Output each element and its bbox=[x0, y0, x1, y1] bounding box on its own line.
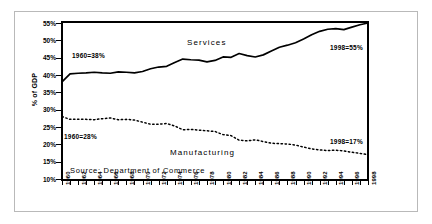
y-tick-label: 50% bbox=[30, 37, 56, 44]
x-tick-mark bbox=[175, 181, 176, 185]
x-tick-mark bbox=[207, 181, 208, 185]
x-tick-mark bbox=[360, 181, 361, 185]
x-tick-mark bbox=[255, 181, 256, 185]
x-tick-mark bbox=[320, 181, 321, 185]
annotation-manufacturing-start: 1960=28% bbox=[64, 133, 97, 140]
x-tick-mark bbox=[78, 181, 79, 185]
annotation-services-end: 1998=55% bbox=[330, 44, 363, 51]
x-tick-mark bbox=[271, 181, 272, 185]
x-tick-label: 1988 bbox=[290, 171, 296, 185]
y-tick-label: 30% bbox=[30, 106, 56, 113]
y-tick-label: 35% bbox=[30, 89, 56, 96]
y-tick-mark bbox=[56, 144, 62, 145]
x-tick-mark bbox=[143, 181, 144, 185]
y-tick-label: 20% bbox=[30, 141, 56, 148]
source-note: Source: Department of Commerce bbox=[70, 166, 205, 175]
y-tick-mark bbox=[56, 110, 62, 111]
plot-right-border bbox=[367, 21, 369, 181]
x-tick-label: 1978 bbox=[209, 171, 215, 185]
y-tick-label: 25% bbox=[30, 124, 56, 131]
y-tick-label: 45% bbox=[30, 54, 56, 61]
y-tick-mark bbox=[56, 179, 62, 180]
y-tick-mark bbox=[56, 92, 62, 93]
x-tick-label: 1984 bbox=[258, 171, 264, 185]
x-tick-mark bbox=[94, 181, 95, 185]
x-tick-label: 1998 bbox=[371, 171, 377, 185]
y-tick-label: 40% bbox=[30, 72, 56, 79]
x-tick-mark bbox=[239, 181, 240, 185]
x-tick-mark bbox=[199, 181, 200, 185]
y-tick-mark bbox=[56, 23, 62, 24]
y-tick-label: 10% bbox=[30, 176, 56, 183]
series-label-manufacturing: Manufacturing bbox=[170, 148, 235, 157]
x-tick-label: 1982 bbox=[242, 171, 248, 185]
x-tick-label: 1994 bbox=[338, 171, 344, 185]
x-tick-mark bbox=[352, 181, 353, 185]
x-tick-label: 1980 bbox=[226, 171, 232, 185]
plot-top-border bbox=[61, 21, 369, 23]
y-tick-mark bbox=[56, 58, 62, 59]
annotation-manufacturing-end: 1998=17% bbox=[330, 138, 363, 145]
x-tick-label: 1986 bbox=[274, 171, 280, 185]
y-axis-line bbox=[61, 21, 63, 181]
x-tick-mark bbox=[223, 181, 224, 185]
x-tick-mark bbox=[110, 181, 111, 185]
x-tick-label: 1996 bbox=[354, 171, 360, 185]
x-tick-mark bbox=[191, 181, 192, 185]
y-tick-mark bbox=[56, 162, 62, 163]
x-tick-mark bbox=[215, 181, 216, 185]
chart-screenshot: % of GDP 55%50%45%40%35%30%25%20%15%10% … bbox=[0, 0, 432, 224]
x-tick-mark bbox=[287, 181, 288, 185]
x-tick-label: 1990 bbox=[306, 171, 312, 185]
y-tick-label: 15% bbox=[30, 158, 56, 165]
annotation-services-start: 1960=38% bbox=[72, 52, 105, 59]
x-tick-mark bbox=[159, 181, 160, 185]
y-tick-mark bbox=[56, 127, 62, 128]
x-tick-mark bbox=[304, 181, 305, 185]
x-tick-mark bbox=[336, 181, 337, 185]
x-tick-label: 1992 bbox=[322, 171, 328, 185]
x-tick-mark bbox=[126, 181, 127, 185]
y-tick-mark bbox=[56, 40, 62, 41]
y-tick-label: 55% bbox=[30, 20, 56, 27]
y-tick-mark bbox=[56, 75, 62, 76]
series-label-services: Services bbox=[187, 38, 226, 47]
x-tick-mark bbox=[368, 181, 369, 185]
x-tick-mark bbox=[62, 181, 63, 185]
